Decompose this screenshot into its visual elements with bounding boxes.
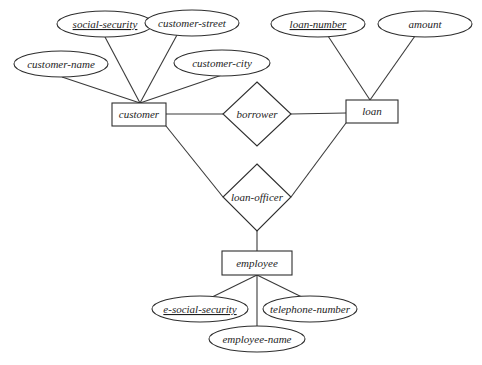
attribute-amount[interactable]: amount (378, 11, 472, 37)
relationship-borrower[interactable]: borrower (223, 82, 291, 146)
relationship-loan-officer[interactable]: loan-officer (223, 164, 291, 231)
er-diagram: social-security customer-street customer… (0, 0, 482, 365)
entity-employee-label: employee (236, 257, 278, 269)
attribute-e-social-security[interactable]: e-social-security (152, 296, 248, 322)
line-loan-number-loan (328, 36, 370, 100)
attribute-customer-name[interactable]: customer-name (14, 51, 108, 77)
attribute-customer-city[interactable]: customer-city (174, 50, 270, 76)
line-amount-loan (370, 36, 415, 100)
attribute-employee-name[interactable]: employee-name (209, 326, 305, 352)
attribute-social-security[interactable]: social-security (57, 11, 153, 37)
attribute-amount-label: amount (409, 18, 443, 30)
attribute-e-social-security-label: e-social-security (163, 303, 236, 315)
line-loan-loan-officer (291, 123, 346, 197)
relationship-loan-officer-label: loan-officer (231, 191, 284, 203)
attribute-loan-number[interactable]: loan-number (271, 11, 365, 37)
attribute-customer-city-label: customer-city (192, 57, 252, 69)
entity-loan-label: loan (362, 105, 382, 117)
entity-customer-label: customer (119, 108, 160, 120)
attribute-customer-street-label: customer-street (158, 17, 227, 29)
attribute-social-security-label: social-security (73, 18, 138, 30)
entity-customer[interactable]: customer (112, 103, 166, 126)
relationship-borrower-label: borrower (236, 108, 278, 120)
line-customer-city-customer (140, 75, 222, 103)
attribute-telephone-number[interactable]: telephone-number (263, 296, 357, 322)
line-customer-loan-officer (166, 126, 223, 197)
attribute-telephone-number-label: telephone-number (270, 303, 351, 315)
entity-loan[interactable]: loan (346, 100, 398, 123)
entity-employee[interactable]: employee (222, 251, 292, 275)
attribute-employee-name-label: employee-name (222, 333, 291, 345)
line-borrower-loan (291, 113, 346, 114)
attribute-loan-number-label: loan-number (290, 18, 348, 30)
attribute-customer-name-label: customer-name (27, 58, 95, 70)
attribute-customer-street[interactable]: customer-street (145, 10, 239, 36)
